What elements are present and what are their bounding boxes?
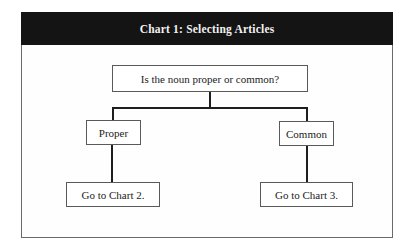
connector-to-common [306, 107, 308, 122]
go-to-chart-2-label: Go to Chart 2. [82, 189, 145, 201]
common-label: Common [286, 128, 327, 140]
connector-proper-to-chart2 [111, 145, 113, 183]
connector-branch-horizontal [112, 107, 308, 109]
common-node: Common [279, 121, 334, 146]
question-label: Is the noun proper or common? [141, 73, 279, 85]
chart-title: Chart 1: Selecting Articles [140, 23, 275, 35]
connector-to-proper [112, 107, 114, 121]
connector-question-stem [209, 92, 211, 108]
go-to-chart-2-node: Go to Chart 2. [66, 182, 160, 207]
question-node: Is the noun proper or common? [112, 65, 308, 92]
proper-node: Proper [86, 120, 141, 145]
go-to-chart-3-label: Go to Chart 3. [275, 189, 338, 201]
chart-header: Chart 1: Selecting Articles [21, 12, 393, 45]
proper-label: Proper [99, 127, 128, 139]
go-to-chart-3-node: Go to Chart 3. [260, 182, 353, 207]
connector-common-to-chart3 [306, 146, 308, 183]
